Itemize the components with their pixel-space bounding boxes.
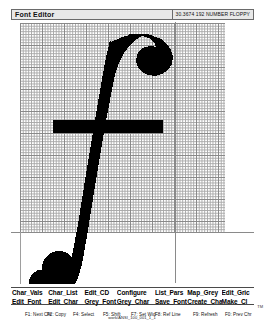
width-guide bbox=[175, 22, 176, 283]
fkey-refresh[interactable]: F9: Refresh bbox=[193, 311, 225, 319]
menu-item-configure[interactable]: Configure bbox=[117, 288, 155, 297]
title-bar: Font Editor 30.3674 192 NUMBER FLOPPY bbox=[11, 9, 254, 20]
fkey-ref-line[interactable]: F8: Ref Line bbox=[155, 311, 193, 319]
command-menu: Char_Vals Char_List Edit_CD Configure Li… bbox=[11, 287, 254, 305]
fkey-set-width[interactable]: F7: Set Wid bbox=[131, 311, 155, 319]
menu-item-char-list[interactable]: Char_List bbox=[48, 288, 84, 297]
menu-item-map-grey[interactable]: Map_Grey bbox=[187, 288, 221, 297]
font-editor-window: Font Editor 30.3674 192 NUMBER FLOPPY bbox=[0, 0, 264, 322]
baseline-guide bbox=[11, 232, 254, 233]
fkey-select[interactable]: F4: Select bbox=[73, 311, 103, 319]
trademark-label: TM bbox=[257, 304, 263, 309]
window-info-label: 30.3674 192 NUMBER FLOPPY bbox=[173, 10, 253, 19]
fkey-shift[interactable]: F5: Shift bbox=[103, 311, 131, 319]
origin-guide bbox=[20, 232, 21, 284]
menu-item-edit-cd[interactable]: Edit_CD bbox=[84, 288, 116, 297]
fkey-copy[interactable]: F2: Copy bbox=[47, 311, 73, 319]
command-menu-row-1: Char_Vals Char_List Edit_CD Configure Li… bbox=[11, 288, 254, 297]
window-title: Font Editor bbox=[12, 10, 55, 19]
menu-item-char-vals[interactable]: Char_Vals bbox=[11, 288, 48, 297]
fkey-next-char[interactable]: F1: Next Chr bbox=[11, 311, 47, 319]
glyph-canvas[interactable] bbox=[11, 22, 254, 284]
menu-item-list-pars[interactable]: List_Pars bbox=[155, 288, 187, 297]
menu-item-edit-grid[interactable]: Edit_Gric bbox=[222, 288, 254, 297]
function-key-bar: F1: Next Chr F2: Copy F4: Select F5: Shi… bbox=[11, 311, 254, 319]
pixel-grid-major bbox=[20, 23, 225, 233]
fkey-prev-char[interactable]: F0: Prev Chr bbox=[225, 311, 251, 319]
